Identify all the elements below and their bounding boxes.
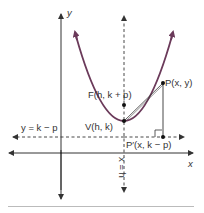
y-axis-label: y bbox=[66, 7, 73, 18]
point-focus bbox=[122, 103, 126, 107]
vertex-label: V(h, k) bbox=[85, 121, 113, 132]
directrix-label: y = k − p bbox=[21, 122, 57, 133]
parabola-arrow-right bbox=[171, 32, 173, 40]
point-vertex bbox=[122, 119, 126, 123]
parabola-arrow-left bbox=[75, 32, 77, 40]
right-angle-marker bbox=[155, 130, 162, 137]
projection-label: P′(x, k − p) bbox=[126, 139, 171, 150]
axis-of-symmetry-label: x = h bbox=[117, 157, 128, 178]
point-label: P(x, y) bbox=[165, 77, 192, 88]
segment-focus-to-point-2 bbox=[126, 84, 164, 121]
parabola-diagram: y x F(h, k + p) P(x, y) V(h, k) y = k − … bbox=[0, 0, 204, 213]
focus-label: F(h, k + p) bbox=[88, 89, 132, 100]
x-axis-label: x bbox=[187, 158, 194, 169]
